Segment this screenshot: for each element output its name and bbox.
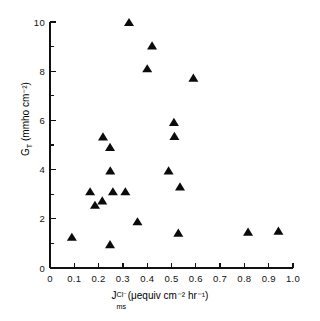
y-tick-label-0: 0: [39, 263, 45, 274]
data-point: [273, 227, 283, 235]
y-axis-units: (mmho cm⁻²): [20, 82, 31, 141]
data-point: [85, 187, 95, 195]
data-point: [173, 228, 183, 236]
x-tick-label-7: 0.7: [213, 273, 227, 284]
data-point: [243, 227, 253, 235]
data-point: [164, 166, 174, 174]
y-tick-label-1: 2: [39, 213, 45, 224]
x-axis-units: (μequiv cm⁻² hr⁻¹): [128, 290, 209, 301]
x-axis-tick-labels: 00.10.20.30.40.50.60.70.80.91.0: [47, 273, 300, 284]
data-point: [124, 18, 134, 26]
x-axis-subscript: ms: [117, 302, 127, 311]
x-tick-label-10: 1.0: [286, 273, 300, 284]
y-tick-label-3: 6: [39, 115, 45, 126]
y-axis-title: GT (mmho cm⁻²): [20, 44, 34, 194]
y-axis-symbol: G: [20, 148, 31, 156]
data-point: [90, 201, 100, 209]
data-point: [147, 41, 157, 49]
x-tick-label-5: 0.5: [164, 273, 178, 284]
data-point: [120, 187, 130, 195]
data-point-markers: [67, 18, 284, 248]
y-axis-ticks: [50, 22, 56, 268]
x-tick-label-4: 0.4: [140, 273, 154, 284]
y-axis-subscript: T: [25, 144, 34, 148]
data-point: [105, 240, 115, 248]
data-point: [188, 73, 198, 81]
data-point: [169, 132, 179, 140]
data-point: [105, 143, 115, 151]
x-tick-label-3: 0.3: [116, 273, 130, 284]
x-tick-label-8: 0.8: [237, 273, 251, 284]
data-point: [105, 166, 115, 174]
data-point: [98, 132, 108, 140]
data-point: [67, 233, 77, 241]
y-tick-label-5: 10: [34, 17, 45, 28]
x-axis-ticks: [50, 263, 293, 268]
data-point: [169, 118, 179, 126]
x-axis-superscript: Cl⁻: [117, 290, 128, 299]
scatter-plot-figure: 00.10.20.30.40.50.60.70.80.91.0 0246810 …: [0, 0, 320, 321]
data-point: [142, 64, 152, 72]
x-tick-label-9: 0.9: [262, 273, 276, 284]
x-tick-label-2: 0.2: [92, 273, 106, 284]
plot-canvas: 00.10.20.30.40.50.60.70.80.91.0 0246810: [0, 0, 320, 321]
data-point: [108, 187, 118, 195]
data-point: [97, 196, 107, 204]
x-tick-label-6: 0.6: [189, 273, 203, 284]
x-tick-label-0: 0: [47, 273, 53, 284]
y-axis-tick-labels: 0246810: [34, 17, 45, 274]
data-point: [132, 217, 142, 225]
data-point: [175, 182, 185, 190]
y-tick-label-4: 8: [39, 66, 45, 77]
axes: [50, 22, 293, 268]
x-tick-label-1: 0.1: [67, 273, 81, 284]
x-axis-title: JCl⁻ms (μequiv cm⁻² hr⁻¹): [0, 290, 320, 301]
y-tick-label-2: 4: [39, 164, 45, 175]
